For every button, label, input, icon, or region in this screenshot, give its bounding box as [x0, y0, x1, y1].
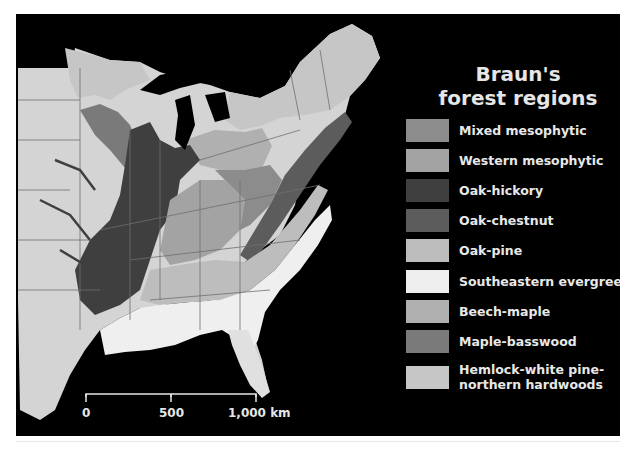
bottom-rule: [16, 441, 620, 442]
scale-bar: [16, 14, 620, 436]
scale-label-1000km: 1,000 km: [228, 406, 291, 420]
map-frame: Braun's forest regions Mixed mesophytic …: [16, 14, 620, 436]
scale-label-500: 500: [159, 406, 184, 420]
scale-label-0: 0: [82, 406, 90, 420]
